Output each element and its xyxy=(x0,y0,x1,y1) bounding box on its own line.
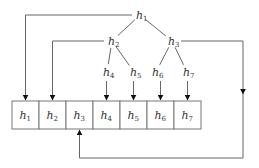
tree-edge-h3-h7 xyxy=(175,47,183,64)
mapping-arrow-h2 xyxy=(53,41,105,100)
tree-node-h3: h3 xyxy=(168,35,180,49)
mapping-arrow-h1 xyxy=(26,15,133,100)
tree-node-h5: h5 xyxy=(130,66,142,80)
heap-array-diagram: h1h2h3h4h5h6h7 h1h2h3h4h5h6h7 xyxy=(0,0,259,168)
tree-node-h4: h4 xyxy=(103,66,115,80)
tree-edge-h1-h2 xyxy=(118,20,135,36)
tree-edge-h3-h6 xyxy=(160,47,169,65)
tree-edge-h1-h3 xyxy=(145,19,165,36)
tree-edge-h2-h4 xyxy=(108,48,111,64)
tree-edge-h2-h5 xyxy=(116,47,129,66)
tree-node-h7: h7 xyxy=(183,66,195,80)
tree-node-h6: h6 xyxy=(152,66,164,80)
tree-node-h2: h2 xyxy=(108,35,120,49)
tree-node-h1: h1 xyxy=(136,9,148,23)
mapping-arrow-h3-down xyxy=(181,41,243,94)
